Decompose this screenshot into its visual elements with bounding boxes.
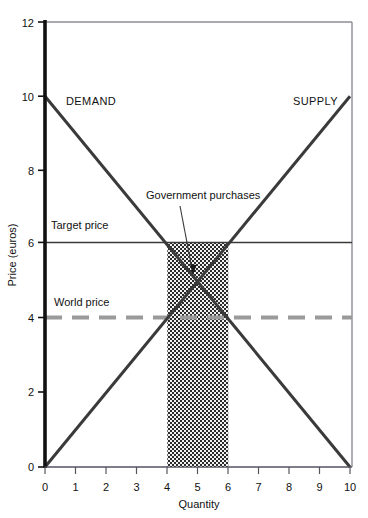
- x-tick-label-7: 7: [255, 481, 261, 493]
- x-axis-ticks: [45, 467, 350, 474]
- x-tick-label-9: 9: [316, 481, 322, 493]
- government-purchases-label: Government purchases: [146, 189, 261, 201]
- economics-supply-demand-chart: 12 10 8 6 4 2 0 0 1 2 3 4 5 6 7 8 9 10 Q…: [0, 0, 368, 518]
- y-tick-label-12: 12: [22, 17, 34, 29]
- y-tick-label-4: 4: [28, 312, 34, 324]
- y-tick-label-6: 6: [28, 237, 34, 249]
- y-tick-label-10: 10: [22, 91, 34, 103]
- x-tick-label-1: 1: [72, 481, 78, 493]
- target-price-label: Target price: [51, 219, 108, 231]
- x-tick-label-10: 10: [344, 481, 356, 493]
- y-axis-title: Price (euros): [6, 224, 18, 287]
- y-tick-labels: 12 10 8 6 4 2 0: [22, 17, 34, 474]
- supply-curve-label: SUPPLY: [293, 95, 338, 107]
- y-tick-label-0: 0: [28, 461, 34, 473]
- x-tick-labels: 0 1 2 3 4 5 6 7 8 9 10: [42, 481, 356, 493]
- x-tick-label-3: 3: [133, 481, 139, 493]
- x-tick-label-0: 0: [42, 481, 48, 493]
- world-price-label: World price: [54, 296, 109, 308]
- government-purchases-region: [167, 242, 228, 467]
- x-tick-label-5: 5: [194, 481, 200, 493]
- x-tick-label-4: 4: [164, 481, 170, 493]
- y-tick-label-8: 8: [28, 165, 34, 177]
- x-tick-label-2: 2: [103, 481, 109, 493]
- x-tick-label-8: 8: [286, 481, 292, 493]
- chart-container: 12 10 8 6 4 2 0 0 1 2 3 4 5 6 7 8 9 10 Q…: [0, 0, 368, 518]
- y-tick-label-2: 2: [28, 386, 34, 398]
- x-axis-title: Quantity: [179, 498, 220, 510]
- x-tick-label-6: 6: [225, 481, 231, 493]
- demand-curve-label: DEMAND: [66, 95, 116, 107]
